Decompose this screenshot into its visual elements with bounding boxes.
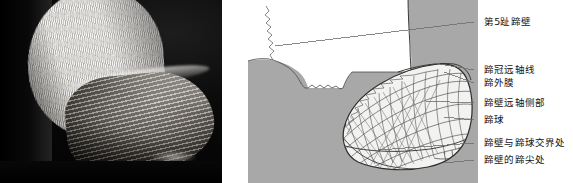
label-periople-membrane: 蹄外膜 — [484, 77, 515, 88]
label-toe-of-wall: 蹄壁的蹄尖处 — [484, 154, 545, 165]
label-bulb: 蹄球 — [484, 114, 504, 125]
photo-ground-shadow — [0, 161, 222, 183]
label-wall-bulb-junction: 蹄壁与蹄球交界处 — [484, 137, 566, 148]
diagram-gray-field — [248, 0, 478, 183]
hoof-photograph-panel — [0, 0, 222, 183]
label-hoof-wall-digit5: 第5趾蹄壁 — [484, 16, 531, 27]
label-coronary-distal-axial: 蹄冠远轴线 — [484, 64, 535, 75]
figure-root: 第5趾蹄壁 蹄冠远轴线 蹄外膜 蹄壁远轴侧部 蹄球 蹄壁与蹄球交界处 蹄壁的蹄尖… — [0, 0, 573, 183]
label-abaxial-wall: 蹄壁远轴侧部 — [484, 97, 545, 108]
